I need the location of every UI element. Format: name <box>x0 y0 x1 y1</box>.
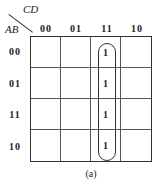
col-header-10: 10 <box>122 23 152 34</box>
grouping-loop <box>98 43 116 161</box>
col-header-11: 11 <box>92 23 122 34</box>
cell <box>61 99 91 130</box>
cell <box>61 37 91 68</box>
karnaugh-map-grid: 1 1 1 1 <box>30 36 152 162</box>
figure-caption: (a) <box>78 168 104 179</box>
cell <box>121 68 151 99</box>
cell <box>61 68 91 99</box>
row-header-00: 00 <box>0 46 30 57</box>
column-variable-label: CD <box>23 3 38 15</box>
cell <box>121 99 151 130</box>
col-header-00: 00 <box>31 23 61 34</box>
col-header-01: 01 <box>61 23 91 34</box>
cell <box>121 37 151 68</box>
cell <box>31 130 61 161</box>
cell <box>121 130 151 161</box>
row-variable-label: AB <box>5 23 18 35</box>
cell <box>31 99 61 130</box>
row-header-01: 01 <box>0 78 30 89</box>
row-header-11: 11 <box>0 109 30 120</box>
cell <box>61 130 91 161</box>
cell <box>31 68 61 99</box>
row-header-10: 10 <box>0 141 30 152</box>
cell <box>31 37 61 68</box>
